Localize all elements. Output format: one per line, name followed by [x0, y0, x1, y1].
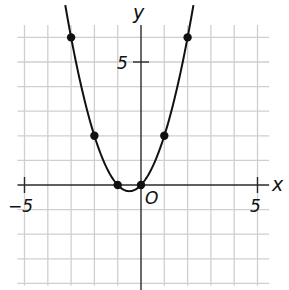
- y-pos-tick-label: 5: [117, 53, 128, 73]
- origin-label: O: [145, 188, 158, 208]
- data-point: [67, 33, 75, 41]
- x-pos-tick-label: 5: [250, 196, 261, 216]
- parabola-graph: x y O −5 5 5: [0, 0, 289, 290]
- y-axis-label: y: [132, 1, 145, 23]
- data-point: [114, 181, 122, 189]
- grid-lines: [18, 25, 270, 286]
- data-point: [137, 181, 145, 189]
- data-point: [90, 132, 98, 140]
- x-neg-tick-label: −5: [8, 196, 33, 216]
- parabola-curve: [65, 5, 193, 191]
- data-point: [160, 132, 168, 140]
- x-axis-label: x: [271, 173, 284, 195]
- data-point: [183, 33, 191, 41]
